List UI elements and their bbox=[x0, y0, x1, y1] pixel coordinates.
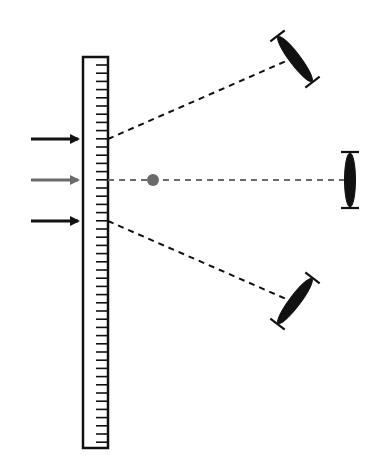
lens-top bbox=[270, 30, 319, 87]
scale-frame bbox=[83, 57, 108, 448]
beam-upper bbox=[108, 58, 293, 139]
beams bbox=[108, 58, 346, 302]
incident-arrows bbox=[31, 139, 78, 221]
optical-diagram bbox=[0, 0, 384, 469]
graduated-scale bbox=[83, 57, 108, 448]
lens-body-icon bbox=[274, 33, 316, 84]
beam-lower bbox=[108, 221, 293, 302]
lens-body-icon bbox=[274, 275, 316, 326]
lens-bottom bbox=[270, 272, 319, 329]
lens-body-icon bbox=[345, 153, 356, 207]
focal-point bbox=[147, 174, 159, 186]
